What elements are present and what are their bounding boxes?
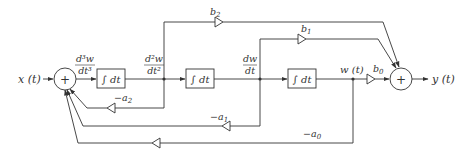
signal-w-label: w (t): [340, 64, 364, 75]
gain-a0-label: −a0: [303, 128, 322, 141]
wire-a0-right: [160, 79, 353, 143]
svg-text:−a0: −a0: [303, 128, 322, 141]
gain-b0-label: b0: [373, 63, 384, 76]
gain-a0-triangle: [152, 138, 160, 148]
svg-text:b1: b1: [301, 23, 312, 36]
signal-d2w-den: dt²: [147, 65, 161, 76]
signal-dw-den: dt: [245, 65, 255, 76]
gain-a2-label: −a2: [114, 92, 133, 105]
svg-text:b0: b0: [373, 63, 384, 76]
svg-text:−a1: −a1: [210, 111, 228, 124]
signal-d2w-num: d²w: [145, 53, 163, 64]
integrator-3-label: ∫ dt: [293, 74, 313, 85]
svg-text:b2: b2: [210, 6, 221, 19]
wire-b1-up: [260, 39, 298, 79]
output-label: y (t): [431, 73, 455, 86]
wire-a1-right: [230, 79, 260, 126]
svg-text:−a2: −a2: [114, 92, 133, 105]
gain-b1-triangle: [298, 34, 306, 44]
sum-left-plus: +: [60, 73, 70, 87]
integrator-2-label: ∫ dt: [191, 74, 211, 85]
input-label: x (t): [18, 73, 41, 86]
gain-a1-label: −a1: [210, 111, 228, 124]
signal-d3w-den: dt³: [78, 65, 92, 76]
block-diagram: + + x (t) y (t) ∫ dt ∫ dt ∫ dt d³w dt³ d…: [0, 0, 467, 160]
junction-d2w: [162, 77, 165, 80]
wire-b2-up: [164, 22, 215, 79]
gain-b0-triangle: [367, 74, 375, 84]
signal-d3w-num: d³w: [76, 53, 94, 64]
sum-right-plus: +: [396, 73, 406, 87]
gain-b2-label: b2: [210, 6, 221, 19]
integrator-1-label: ∫ dt: [102, 74, 122, 85]
gain-a2-triangle: [107, 103, 115, 113]
junction-w: [351, 77, 354, 80]
wire-a2-sum: [70, 89, 107, 108]
signal-dw-num: dw: [243, 53, 257, 64]
gain-b1-label: b1: [301, 23, 312, 36]
junction-dw: [258, 77, 261, 80]
